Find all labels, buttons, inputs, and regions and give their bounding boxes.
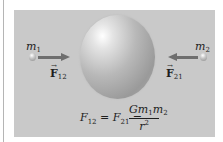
formula-fraction: Gm1m2 r2 — [129, 104, 159, 132]
mass-2-point — [200, 53, 207, 61]
force-21-arrowhead-icon — [168, 53, 177, 61]
formula-denominator: r2 — [129, 120, 159, 132]
force-12-arrowhead-icon — [61, 53, 70, 61]
central-sphere — [80, 15, 155, 99]
gravitation-formula: F12 = F21 = Gm1m2 r2 — [80, 104, 180, 130]
force-12-label: →F12 — [50, 68, 67, 81]
mass-2-label: m2 — [195, 41, 210, 54]
mass-1-label: m1 — [26, 41, 41, 54]
force-21-arrow-shaft — [176, 56, 198, 59]
force-21-label: →F21 — [166, 68, 183, 81]
formula-numerator: Gm1m2 — [129, 104, 159, 117]
force-12-arrow-shaft — [38, 56, 62, 59]
vector-arrow-icon: → — [51, 63, 57, 70]
mass-1-point — [29, 53, 36, 61]
page-edge-line — [3, 0, 4, 142]
vector-arrow-icon: → — [167, 63, 173, 70]
